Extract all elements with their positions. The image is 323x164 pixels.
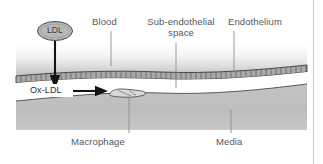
label-ox-ldl: Ox-LDL [30,85,62,96]
label-sub-endothelial-space: Sub-endothelial space [141,16,221,38]
atherosclerosis-diagram: Blood Sub-endothelial space Endothelium … [0,0,323,164]
label-sub-endothelial-line1: Sub-endothelial [147,16,215,27]
label-ldl: LDL [41,25,69,36]
label-endothelium: Endothelium [228,16,282,27]
label-blood: Blood [92,16,117,27]
label-sub-endothelial-line2: space [168,27,194,38]
label-macrophage: Macrophage [71,136,125,147]
label-media: Media [216,136,242,147]
